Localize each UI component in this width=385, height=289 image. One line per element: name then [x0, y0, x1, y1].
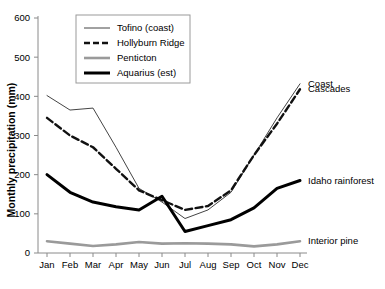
- series-annotation: Cascades: [308, 83, 350, 94]
- x-tick-label: Sep: [223, 259, 240, 270]
- series-line: [47, 241, 300, 246]
- series-annotation: Interior pine: [308, 235, 358, 246]
- y-tick-label: 600: [14, 12, 30, 23]
- x-tick-label: Aug: [200, 259, 217, 270]
- y-tick-label: 0: [25, 247, 30, 258]
- x-tick-label: Mar: [85, 259, 101, 270]
- series-lines: [47, 84, 300, 247]
- legend-label: Aquarius (est): [117, 67, 176, 78]
- x-tick-label: Dec: [292, 259, 309, 270]
- y-tick-label: 500: [14, 52, 30, 63]
- legend: Tofino (coast)Hollyburn RidgePentictonAq…: [76, 15, 190, 83]
- y-axis-title: Monthly precipitation (mm): [5, 83, 17, 218]
- x-tick-label: May: [130, 259, 148, 270]
- chart-canvas: 0100200300400500600 JanFebMarAprMayJunJu…: [0, 0, 385, 289]
- x-tick-label: Apr: [109, 259, 124, 270]
- precipitation-chart: 0100200300400500600 JanFebMarAprMayJunJu…: [0, 0, 385, 289]
- x-tick-label: Jun: [154, 259, 169, 270]
- x-tick-label: Nov: [269, 259, 286, 270]
- legend-label: Penticton: [117, 52, 157, 63]
- legend-label: Hollyburn Ridge: [117, 37, 185, 48]
- x-tick-label: Feb: [62, 259, 78, 270]
- series-annotation: Idaho rainforest: [308, 175, 374, 186]
- series-line: [47, 175, 300, 232]
- x-tick-label: Jul: [179, 259, 191, 270]
- y-axis: 0100200300400500600: [14, 12, 38, 258]
- series-line: [47, 89, 300, 210]
- legend-label: Tofino (coast): [117, 22, 174, 33]
- series-annotations: CoastCascadesIdaho rainforestInterior pi…: [308, 78, 374, 246]
- x-axis: JanFebMarAprMayJunJulAugSepOctNovDec: [38, 253, 309, 270]
- x-tick-label: Oct: [247, 259, 262, 270]
- x-tick-label: Jan: [39, 259, 54, 270]
